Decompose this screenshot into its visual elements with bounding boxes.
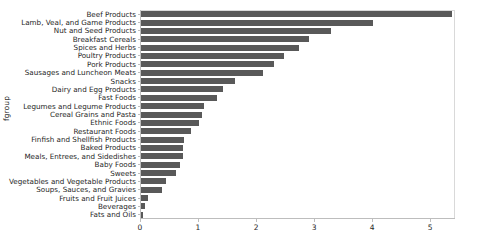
bar-row: Sausages and Luncheon Meats [140, 70, 455, 76]
y-tick-mark [138, 139, 141, 140]
y-tick-mark [138, 206, 141, 207]
bar-row: Finfish and Shellfish Products [140, 137, 455, 143]
bar [141, 86, 223, 92]
bar [141, 203, 145, 209]
y-tick-mark [138, 147, 141, 148]
y-tick-mark [138, 22, 141, 23]
y-tick-mark [138, 72, 141, 73]
bar [141, 78, 235, 84]
bar-row: Fast Foods [140, 95, 455, 101]
x-tick-mark [372, 219, 373, 222]
y-tick-mark [138, 30, 141, 31]
bar [141, 153, 183, 159]
bar [141, 11, 452, 17]
y-tick-mark [138, 97, 141, 98]
bar-row: Restaurant Foods [140, 128, 455, 134]
y-tick-mark [138, 81, 141, 82]
y-tick-mark [138, 114, 141, 115]
y-tick-mark [138, 131, 141, 132]
y-tick-mark [138, 55, 141, 56]
bar-row: Breakfast Cereals [140, 36, 455, 42]
bar-row: Poultry Products [140, 53, 455, 59]
bar-row: Baked Products [140, 145, 455, 151]
bar-row: Spices and Herbs [140, 45, 455, 51]
bar-row: Fruits and Fruit Juices [140, 195, 455, 201]
bar [141, 170, 176, 176]
bar [141, 145, 183, 151]
bar-row: Baby Foods [140, 162, 455, 168]
y-tick-mark [138, 181, 141, 182]
bar [141, 20, 373, 26]
bar-row: Beverages [140, 203, 455, 209]
bar-row: Lamb, Veal, and Game Products [140, 20, 455, 26]
y-tick-mark [138, 122, 141, 123]
bar [141, 53, 284, 59]
x-tick-mark [430, 219, 431, 222]
bar-row: Beef Products [140, 11, 455, 17]
bar-row: Fats and Oils [140, 212, 455, 218]
x-tick-mark [140, 219, 141, 222]
bar-row: Ethnic Foods [140, 120, 455, 126]
bar [141, 137, 184, 143]
y-tick-mark [138, 47, 141, 48]
y-tick-mark [138, 173, 141, 174]
bar [141, 61, 274, 67]
y-tick-mark [138, 64, 141, 65]
x-tick-label: 4 [370, 223, 375, 232]
bar [141, 128, 191, 134]
bar [141, 162, 180, 168]
y-tick-mark [138, 156, 141, 157]
bar [141, 195, 148, 201]
bar [141, 95, 217, 101]
x-tick-label: 1 [196, 223, 201, 232]
x-tick-mark [198, 219, 199, 222]
x-tick-mark [256, 219, 257, 222]
x-tick-label: 2 [254, 223, 259, 232]
y-tick-label: Fats and Oils [90, 210, 136, 219]
y-tick-mark [138, 106, 141, 107]
y-axis-title: fgroup [2, 89, 11, 129]
bar-row: Meals, Entrees, and Sidedishes [140, 153, 455, 159]
x-tick-label: 3 [312, 223, 317, 232]
bar [141, 28, 331, 34]
bar-row: Nut and Seed Products [140, 28, 455, 34]
x-tick-mark [314, 219, 315, 222]
y-tick-mark [138, 214, 141, 215]
bar-rows: Beef ProductsLamb, Veal, and Game Produc… [140, 10, 455, 219]
bar-row: Vegetables and Vegetable Products [140, 178, 455, 184]
bar [141, 103, 204, 109]
x-tick-label: 0 [138, 223, 143, 232]
bar-row: Cereal Grains and Pasta [140, 112, 455, 118]
bar [141, 70, 263, 76]
y-tick-mark [138, 198, 141, 199]
bar [141, 212, 143, 218]
bar [141, 45, 299, 51]
y-tick-mark [138, 39, 141, 40]
bar [141, 178, 166, 184]
bar-row: Pork Products [140, 61, 455, 67]
x-tick-label: 5 [428, 223, 433, 232]
bar-row: Legumes and Legume Products [140, 103, 455, 109]
bar [141, 112, 202, 118]
y-tick-mark [138, 164, 141, 165]
bar-row: Snacks [140, 78, 455, 84]
y-tick-mark [138, 89, 141, 90]
bar [141, 120, 199, 126]
bar-row: Soups, Sauces, and Gravies [140, 187, 455, 193]
y-tick-mark [138, 189, 141, 190]
y-tick-mark [138, 14, 141, 15]
bar [141, 36, 309, 42]
bar-row: Dairy and Egg Products [140, 86, 455, 92]
bar [141, 187, 162, 193]
plot-area: Beef ProductsLamb, Veal, and Game Produc… [140, 10, 455, 219]
bar-chart: fgroup Beef ProductsLamb, Veal, and Game… [0, 0, 485, 248]
bar-row: Sweets [140, 170, 455, 176]
